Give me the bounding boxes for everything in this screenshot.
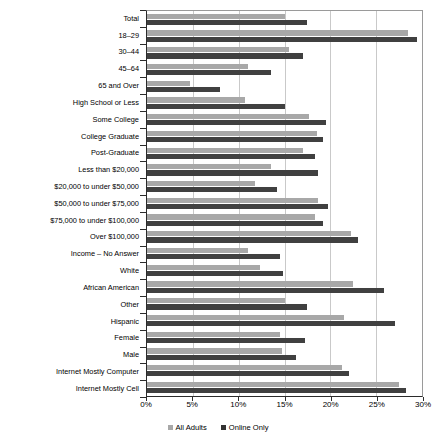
category-label: Income – No Answer: [0, 246, 143, 263]
bar-online-only: [147, 288, 384, 293]
category-label: Internet Mostly Computer: [0, 363, 143, 380]
bar-group: [147, 28, 422, 45]
category-label: Some College: [0, 111, 143, 128]
bar-online-only: [147, 271, 283, 276]
category-label: Less than $20,000: [0, 161, 143, 178]
category-label: 18–29: [0, 27, 143, 44]
category-label: Female: [0, 330, 143, 347]
bar-online-only: [147, 37, 417, 42]
bar-all-adults: [147, 131, 317, 136]
bar-group: [147, 346, 422, 363]
bar-group: [147, 312, 422, 329]
bar-all-adults: [147, 114, 309, 119]
bar-online-only: [147, 104, 285, 109]
bar-all-adults: [147, 97, 245, 102]
bar-online-only: [147, 53, 303, 58]
bar-group: [147, 44, 422, 61]
x-tick-label: 0%: [140, 401, 152, 409]
category-label: African American: [0, 279, 143, 296]
legend-swatch-icon: [221, 425, 226, 430]
category-label: Internet Mostly Cell: [0, 380, 143, 397]
bar-all-adults: [147, 365, 342, 370]
bar-online-only: [147, 70, 271, 75]
legend-swatch-icon: [168, 425, 173, 430]
category-label: $50,000 to under $75,000: [0, 195, 143, 212]
bar-all-adults: [147, 30, 408, 35]
bar-all-adults: [147, 265, 260, 270]
chart-legend: All AdultsOnline Only: [0, 424, 436, 432]
bar-online-only: [147, 120, 326, 125]
bar-online-only: [147, 221, 323, 226]
bar-all-adults: [147, 315, 344, 320]
bar-group: [147, 212, 422, 229]
category-label: Post-Graduate: [0, 145, 143, 162]
bar-group: [147, 279, 422, 296]
category-label: White: [0, 262, 143, 279]
bar-groups: [147, 11, 422, 396]
bar-group: [147, 78, 422, 95]
bar-all-adults: [147, 64, 248, 69]
bar-all-adults: [147, 382, 399, 387]
bar-group: [147, 111, 422, 128]
bar-online-only: [147, 321, 395, 326]
category-label: Other: [0, 296, 143, 313]
bar-all-adults: [147, 81, 190, 86]
x-tick-label: 15%: [276, 401, 292, 409]
x-tick-label: 25%: [369, 401, 385, 409]
bar-online-only: [147, 187, 277, 192]
x-tick-label: 10%: [230, 401, 246, 409]
bar-group: [147, 195, 422, 212]
category-label: Total: [0, 10, 143, 27]
legend-item[interactable]: All Adults: [168, 424, 207, 432]
bar-online-only: [147, 388, 406, 393]
bar-online-only: [147, 371, 349, 376]
bar-all-adults: [147, 181, 255, 186]
bar-all-adults: [147, 332, 280, 337]
x-axis-tick-labels: 0%5%10%15%20%25%30%: [146, 401, 423, 413]
bar-group: [147, 262, 422, 279]
category-label: High School or Less: [0, 94, 143, 111]
bar-group: [147, 61, 422, 78]
x-tick-label: 30%: [415, 401, 431, 409]
bar-online-only: [147, 170, 318, 175]
category-label: Over $100,000: [0, 229, 143, 246]
bar-group: [147, 379, 422, 396]
bar-group: [147, 11, 422, 28]
bar-all-adults: [147, 231, 351, 236]
bar-group: [147, 229, 422, 246]
bar-all-adults: [147, 148, 303, 153]
bar-online-only: [147, 204, 328, 209]
category-label: 65 and Over: [0, 77, 143, 94]
category-label: $20,000 to under $50,000: [0, 178, 143, 195]
bar-group: [147, 245, 422, 262]
bar-group: [147, 178, 422, 195]
bar-group: [147, 145, 422, 162]
bar-all-adults: [147, 348, 282, 353]
bar-chart: Total18–2930–4445–6465 and OverHigh Scho…: [0, 0, 436, 444]
bar-all-adults: [147, 47, 289, 52]
legend-item[interactable]: Online Only: [221, 424, 269, 432]
category-label: Male: [0, 347, 143, 364]
bar-online-only: [147, 338, 305, 343]
bar-group: [147, 295, 422, 312]
bar-all-adults: [147, 164, 271, 169]
category-label: College Graduate: [0, 128, 143, 145]
category-axis-labels: Total18–2930–4445–6465 and OverHigh Scho…: [0, 10, 143, 397]
bar-online-only: [147, 137, 323, 142]
bar-online-only: [147, 20, 307, 25]
category-label: 30–44: [0, 44, 143, 61]
bar-online-only: [147, 237, 358, 242]
bar-group: [147, 362, 422, 379]
bar-group: [147, 95, 422, 112]
x-tick-label: 5%: [186, 401, 198, 409]
bar-online-only: [147, 254, 280, 259]
bar-online-only: [147, 304, 307, 309]
bar-group: [147, 162, 422, 179]
bar-all-adults: [147, 214, 315, 219]
x-tick-label: 20%: [323, 401, 339, 409]
legend-label: Online Only: [229, 424, 269, 432]
bar-all-adults: [147, 198, 318, 203]
bar-all-adults: [147, 14, 285, 19]
bar-group: [147, 329, 422, 346]
gridline: [422, 11, 423, 396]
